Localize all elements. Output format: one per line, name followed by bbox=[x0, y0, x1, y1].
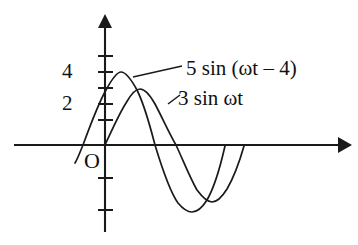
series-label-5-sin: 5 sin (ωt – 4) bbox=[186, 58, 297, 79]
origin-label: O bbox=[84, 150, 100, 172]
series-label-3-sin: 3 sin ωt bbox=[178, 88, 243, 109]
leader-line-series-0 bbox=[133, 66, 182, 77]
x-axis-arrow-icon bbox=[338, 137, 352, 153]
waveform-figure: 4 2 O 5 sin (ωt – 4) 3 sin ωt bbox=[0, 0, 358, 245]
y-axis-tick-label-2: 2 bbox=[62, 93, 73, 114]
y-axis-tick-label-4: 4 bbox=[62, 61, 73, 82]
y-axis-arrow-icon bbox=[98, 14, 112, 28]
plot-canvas bbox=[0, 0, 358, 245]
